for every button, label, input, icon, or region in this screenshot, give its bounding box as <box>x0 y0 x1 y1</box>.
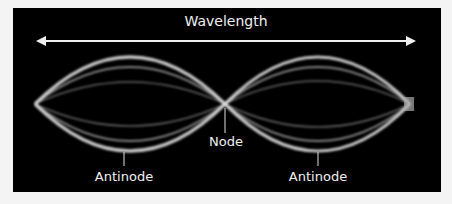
antinode-left-label: Antinode <box>95 169 153 184</box>
string-end-clamp <box>404 97 414 111</box>
standing-wave-diagram <box>0 0 452 204</box>
node-label: Node <box>209 134 243 149</box>
wavelength-arrow <box>36 36 416 46</box>
antinode-right-label: Antinode <box>289 169 347 184</box>
wavelength-label: Wavelength <box>184 13 267 29</box>
